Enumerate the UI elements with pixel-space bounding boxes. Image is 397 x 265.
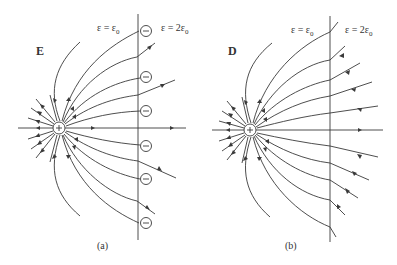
field-line-diagram	[0, 0, 397, 265]
field-line	[65, 132, 176, 178]
eps-subscript: 0	[185, 28, 189, 36]
eps-subscript: 0	[116, 28, 120, 36]
field-line	[31, 133, 54, 149]
caption-b: (b)	[285, 240, 297, 251]
field-line	[255, 135, 358, 198]
eps-text: ε = 2ε	[345, 24, 369, 35]
positive-charge-a	[53, 122, 65, 134]
field-symbol-d: D	[228, 44, 237, 59]
region-label-b-left: ε = ε0	[291, 24, 314, 38]
field-line	[28, 118, 53, 126]
field-line	[222, 135, 245, 151]
panel-b	[212, 16, 383, 242]
field-line	[255, 63, 360, 125]
eps-subscript: 0	[310, 30, 314, 38]
field-line	[219, 121, 244, 128]
region-label-b-right: ε = 2ε0	[345, 24, 373, 38]
field-line	[256, 134, 369, 180]
field-line	[28, 131, 53, 139]
field-line	[219, 133, 244, 141]
field-line	[66, 111, 140, 126]
field-line	[254, 136, 345, 215]
field-line	[254, 46, 345, 124]
eps-text: ε = 2ε	[161, 22, 185, 33]
field-symbol-e: E	[36, 44, 44, 59]
eps-text: ε = ε	[97, 22, 116, 33]
region-label-a-right: ε = 2ε0	[161, 22, 189, 36]
field-line	[253, 137, 336, 237]
eps-text: ε = ε	[291, 24, 310, 35]
positive-charge-b	[244, 124, 256, 136]
caption-a: (a)	[97, 240, 108, 251]
eps-subscript: 0	[369, 30, 373, 38]
region-label-a-left: ε = ε0	[97, 22, 120, 36]
negative-charges-a	[141, 26, 152, 229]
field-line	[65, 80, 175, 124]
